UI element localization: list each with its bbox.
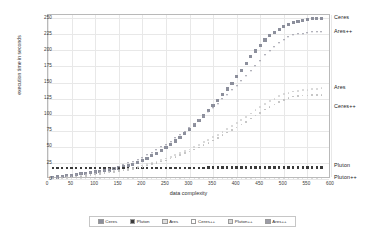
data-point	[170, 141, 172, 143]
x-tick-label: 50	[61, 181, 81, 186]
data-point	[320, 31, 322, 33]
data-point	[94, 178, 95, 179]
data-point	[132, 161, 134, 163]
legend-swatch-icon	[191, 219, 197, 225]
data-point	[287, 36, 289, 38]
legend-label: Ceres	[105, 219, 117, 224]
data-point	[268, 166, 270, 168]
data-point	[123, 170, 125, 172]
data-point	[155, 152, 158, 155]
data-point	[146, 154, 148, 156]
legend-item[interactable]: Ceres	[98, 219, 117, 225]
data-point	[311, 88, 313, 90]
data-point	[240, 119, 242, 121]
data-point	[193, 146, 195, 148]
series-annotation: Ares	[334, 84, 346, 90]
data-point	[264, 103, 266, 105]
data-point	[89, 172, 91, 174]
data-point	[231, 89, 233, 91]
data-point	[221, 93, 224, 96]
legend-item[interactable]: Ares++	[265, 219, 286, 225]
data-point	[198, 178, 199, 179]
data-point	[227, 178, 228, 179]
y-tick-label: 75	[32, 127, 52, 132]
data-point	[278, 166, 280, 168]
data-point	[122, 164, 124, 166]
data-point	[301, 19, 304, 22]
data-point	[221, 98, 223, 100]
data-point	[302, 33, 304, 35]
data-point	[113, 167, 115, 169]
data-point	[296, 20, 299, 23]
data-point	[249, 55, 252, 58]
data-point	[292, 34, 294, 36]
gridline-horizontal	[48, 99, 329, 100]
x-tick-label: 0	[37, 181, 57, 186]
y-tick-label: 150	[32, 79, 52, 84]
gridline-horizontal	[48, 179, 329, 180]
data-point	[89, 167, 91, 169]
data-point	[306, 32, 308, 34]
chart-legend: CeresPlutonAresCeres++Pluton++Ares++	[89, 216, 296, 227]
data-point	[292, 21, 295, 24]
data-point	[80, 167, 82, 169]
data-point	[193, 167, 195, 169]
legend-swatch-icon	[130, 219, 136, 225]
data-point	[316, 31, 318, 33]
legend-item[interactable]: Pluton++	[228, 219, 253, 225]
data-point	[240, 166, 242, 168]
data-point	[302, 166, 304, 168]
x-tick-label: 400	[226, 181, 246, 186]
data-point	[250, 118, 252, 120]
gridline-horizontal	[48, 50, 329, 51]
data-point	[75, 174, 77, 176]
legend-swatch-icon	[265, 219, 271, 225]
legend-item[interactable]: Ceres++	[191, 219, 215, 225]
data-point	[198, 147, 200, 149]
data-point	[132, 168, 134, 170]
x-tick-label: 500	[273, 181, 293, 186]
data-point	[250, 70, 252, 72]
data-point	[108, 168, 110, 170]
data-point	[104, 172, 106, 174]
data-point	[155, 149, 157, 151]
series-annotation: Ceres	[334, 14, 349, 20]
data-point	[217, 134, 219, 136]
data-point	[80, 173, 82, 175]
gridline-vertical	[237, 15, 238, 177]
data-point	[316, 166, 318, 168]
data-point	[160, 149, 163, 152]
data-point	[245, 121, 247, 123]
data-point	[66, 178, 67, 179]
data-point	[321, 94, 323, 96]
data-point	[99, 178, 100, 179]
data-point	[127, 178, 128, 179]
data-point	[99, 167, 101, 169]
data-point	[202, 167, 204, 169]
data-point	[66, 175, 68, 177]
data-point	[165, 160, 167, 162]
legend-item[interactable]: Pluton	[130, 219, 150, 225]
data-point	[61, 176, 63, 178]
y-tick-label: 175	[32, 63, 52, 68]
data-point	[306, 18, 309, 21]
x-tick-label: 250	[155, 181, 175, 186]
gridline-horizontal	[48, 18, 329, 19]
data-point	[311, 178, 312, 179]
data-point	[151, 152, 153, 154]
gridline-vertical	[307, 15, 308, 177]
data-point	[109, 172, 111, 174]
x-tick-label: 350	[202, 181, 222, 186]
data-point	[240, 80, 242, 82]
y-tick-label: 100	[32, 111, 52, 116]
data-point	[94, 171, 96, 173]
data-point	[179, 134, 181, 136]
data-point	[254, 49, 257, 52]
data-point	[316, 88, 318, 90]
data-point	[283, 178, 284, 179]
legend-item[interactable]: Ares	[162, 219, 178, 225]
data-point	[151, 163, 153, 165]
y-tick-label: 25	[32, 160, 52, 165]
data-point	[297, 178, 298, 179]
data-point	[297, 90, 299, 92]
